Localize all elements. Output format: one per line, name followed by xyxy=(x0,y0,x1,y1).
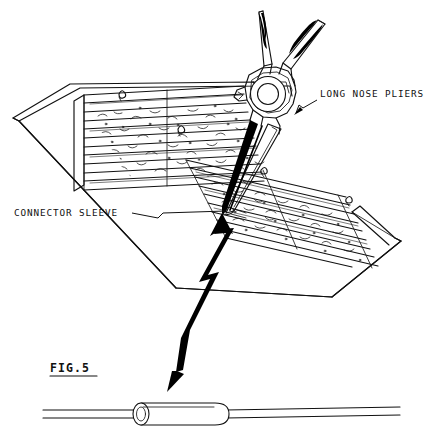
patent-figure-root: LONG NOSE PLIERS CONNECTOR SLEEVE FIG.5 xyxy=(0,0,437,438)
pivot-rivet-inner xyxy=(258,84,279,105)
sleeve-body xyxy=(141,403,229,425)
callout-connector-sleeve: CONNECTOR SLEEVE xyxy=(14,207,118,218)
connector-sleeve-detail xyxy=(43,403,400,425)
leader-arrow-pliers xyxy=(294,107,303,115)
figure-label-group: FIG.5 xyxy=(50,361,97,376)
callout-long-nose-pliers: LONG NOSE PLIERS xyxy=(320,88,424,99)
figure-label: FIG.5 xyxy=(50,361,90,375)
sleeve-open-end xyxy=(133,403,149,425)
terminal-block-right xyxy=(186,160,378,268)
arrow-head-bottom xyxy=(167,371,184,392)
action-break-arrow xyxy=(167,213,234,392)
figure-canvas: LONG NOSE PLIERS CONNECTOR SLEEVE FIG.5 xyxy=(0,0,437,438)
handle-grip-texture xyxy=(289,20,323,59)
